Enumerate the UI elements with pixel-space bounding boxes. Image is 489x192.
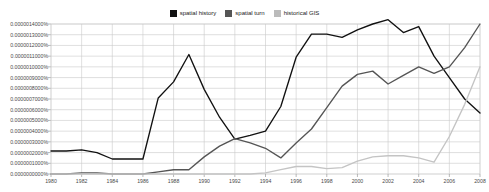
y-axis-tick-label: 0.0000004000% — [10, 128, 48, 134]
gridlines — [48, 24, 480, 177]
y-axis-tick-label: 0.0000006000% — [10, 107, 48, 113]
y-axis-tick-label: 0.0000009000% — [10, 75, 48, 81]
y-axis-tick-label: 0.0000010000% — [10, 64, 48, 70]
plot-area: 0.0000014000%0.0000013000%0.0000012000%0… — [0, 0, 489, 192]
x-axis-tick-label: 2002 — [382, 178, 394, 184]
x-axis-tick-label: 1982 — [76, 178, 88, 184]
y-axis-labels: 0.0000014000%0.0000013000%0.0000012000%0… — [0, 0, 48, 192]
chart-canvas — [0, 0, 489, 192]
y-axis-tick-label: 0.0000008000% — [10, 85, 48, 91]
x-axis-tick-label: 1980 — [45, 178, 57, 184]
x-axis-tick-label: 2006 — [444, 178, 456, 184]
x-axis-labels: 1980198219841986198819901992199419961998… — [0, 174, 489, 184]
x-axis-tick-label: 1988 — [168, 178, 180, 184]
y-axis-tick-label: 0.0000014000% — [10, 21, 48, 27]
y-axis-tick-label: 0.0000002000% — [10, 150, 48, 156]
x-axis-tick-label: 2000 — [352, 178, 364, 184]
x-axis-tick-label: 1994 — [260, 178, 272, 184]
y-axis-tick-label: 0.0000005000% — [10, 117, 48, 123]
x-axis-tick-label: 1996 — [290, 178, 302, 184]
x-axis-tick-label: 2004 — [413, 178, 425, 184]
x-axis-tick-label: 1986 — [137, 178, 149, 184]
x-axis-tick-label: 1992 — [229, 178, 241, 184]
y-axis-tick-label: 0.0000011000% — [11, 53, 48, 59]
y-axis-tick-label: 0.0000001000% — [10, 160, 48, 166]
y-axis-tick-label: 0.0000007000% — [10, 96, 48, 102]
y-axis-tick-label: 0.0000013000% — [10, 32, 48, 38]
y-axis-tick-label: 0.0000012000% — [10, 42, 48, 48]
x-axis-tick-label: 1984 — [107, 178, 119, 184]
x-axis-tick-label: 2008 — [474, 178, 486, 184]
x-axis-tick-label: 1998 — [321, 178, 333, 184]
ngram-chart: spatial history spatial turn historical … — [0, 0, 489, 192]
x-axis-tick-label: 1990 — [198, 178, 210, 184]
y-axis-tick-label: 0.0000003000% — [10, 139, 48, 145]
